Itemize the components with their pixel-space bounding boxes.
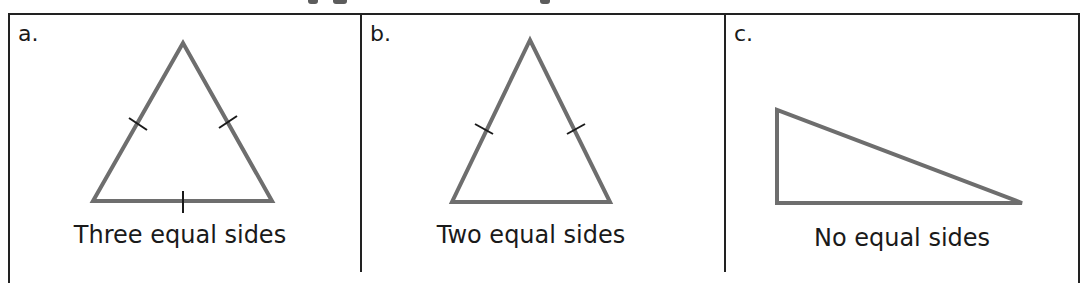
isosceles-triangle [452, 40, 610, 202]
caption-isosceles: Two equal sides [437, 221, 626, 249]
scalene-triangle [777, 110, 1022, 203]
caption-scalene: No equal sides [814, 224, 990, 252]
caption-equilateral: Three equal sides [74, 221, 286, 249]
equilateral-triangle [93, 43, 272, 201]
